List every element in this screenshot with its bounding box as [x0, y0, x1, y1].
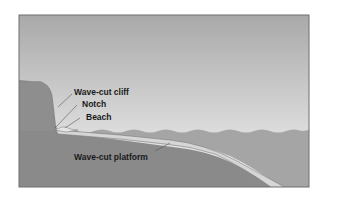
label-beach: Beach	[86, 112, 112, 122]
label-wave-cut-cliff: Wave-cut cliff	[74, 87, 129, 97]
wave-cut-platform-diagram: Wave-cut cliff Notch Beach Wave-cut plat…	[0, 0, 340, 210]
label-notch: Notch	[82, 99, 106, 109]
label-wave-cut-platform: Wave-cut platform	[74, 152, 148, 162]
